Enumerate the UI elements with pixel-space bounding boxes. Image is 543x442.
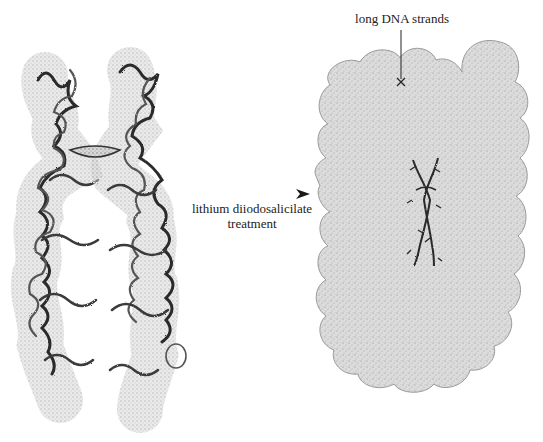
condensed-chromosome — [29, 65, 186, 410]
long-dna-strands-label: long DNA strands — [352, 11, 452, 26]
chromatid-left — [29, 70, 98, 400]
treatment-arrow — [296, 189, 310, 199]
chromatid-right — [108, 65, 186, 410]
dna-halo — [315, 40, 529, 392]
treatment-label-line2: treatment — [178, 216, 326, 231]
treatment-label-line1: lithium diiodosalicilate — [178, 201, 326, 216]
arrowhead-icon — [296, 189, 310, 199]
treatment-label: lithium diiodosalicilate treatment — [178, 201, 326, 231]
